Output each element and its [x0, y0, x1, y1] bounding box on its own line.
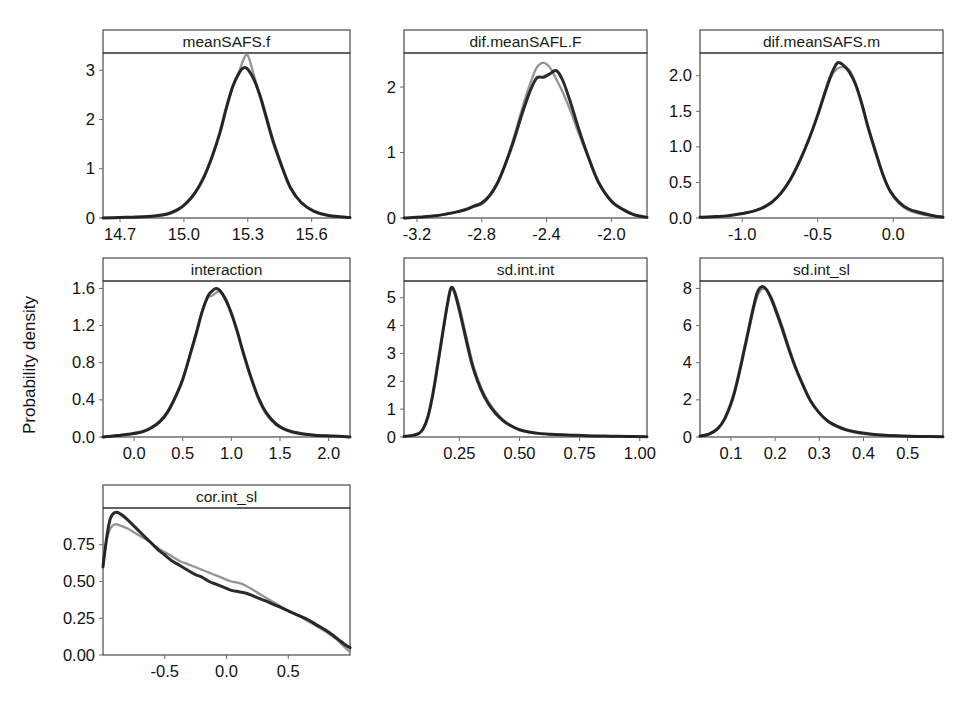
x-tick-label: -3.2: [403, 225, 431, 243]
y-tick-label: 0.75: [63, 535, 95, 553]
y-tick-label: 0: [387, 209, 396, 227]
panel-title: meanSAFS.f: [183, 33, 272, 50]
y-tick-label: 3: [86, 61, 95, 79]
x-tick-label: 0.0: [882, 225, 905, 243]
x-tick-label: -0.5: [804, 225, 832, 243]
y-tick-label: 0.0: [669, 209, 692, 227]
y-tick-label: 0.5: [669, 173, 692, 191]
y-tick-label: 0: [683, 428, 692, 446]
x-tick-label: 0.5: [896, 444, 919, 462]
panel-frame: [404, 53, 647, 218]
y-tick-label: 4: [387, 316, 396, 334]
x-tick-label: 0.75: [564, 444, 596, 462]
y-tick-label: 1.0: [669, 137, 692, 155]
panel-frame: [103, 53, 350, 218]
x-tick-label: 15.3: [232, 225, 264, 243]
panel-title: interaction: [191, 261, 263, 278]
y-tick-label: 1: [387, 143, 396, 161]
y-tick-label: 2: [387, 78, 396, 96]
x-tick-label: 1.0: [220, 444, 243, 462]
y-tick-label: 5: [387, 288, 396, 306]
x-tick-label: 0.5: [171, 444, 194, 462]
y-tick-label: 0: [86, 209, 95, 227]
y-tick-label: 0.25: [63, 609, 95, 627]
x-tick-label: 0.3: [808, 444, 831, 462]
y-tick-label: 0.50: [63, 572, 95, 590]
y-tick-label: 4: [683, 353, 692, 371]
y-tick-label: 8: [683, 279, 692, 297]
density-curve-chain-dark: [103, 67, 350, 218]
density-curve-chain-light: [404, 63, 647, 218]
x-tick-label: 0.0: [215, 662, 238, 680]
y-tick-label: 1.2: [72, 316, 95, 334]
x-tick-label: 0.2: [764, 444, 787, 462]
y-tick-label: 0.8: [72, 353, 95, 371]
y-tick-label: 1: [86, 159, 95, 177]
x-tick-label: 0.5: [277, 662, 300, 680]
x-tick-label: 0.25: [443, 444, 475, 462]
panel-title: sd.int.int: [497, 261, 555, 278]
panel-title: dif.meanSAFS.m: [763, 33, 880, 50]
y-tick-label: 0.00: [63, 646, 95, 664]
x-tick-label: 14.7: [104, 225, 136, 243]
x-tick-label: 0.0: [123, 444, 146, 462]
y-tick-label: 0: [387, 428, 396, 446]
panel-meanSAFS.f: meanSAFS.f012314.715.015.315.6: [86, 30, 350, 243]
x-tick-label: -2.8: [468, 225, 496, 243]
x-tick-label: 1.00: [624, 444, 656, 462]
density-panel-grid: meanSAFS.f012314.715.015.315.6dif.meanSA…: [0, 0, 977, 707]
density-curve-chain-dark: [404, 70, 647, 218]
density-curve-chain-light: [103, 55, 350, 218]
panel-sd.int_sl: sd.int_sl024680.10.20.30.40.5: [683, 258, 943, 462]
panel-interaction: interaction0.00.40.81.21.60.00.51.01.52.…: [72, 258, 350, 462]
panel-frame: [404, 281, 647, 437]
density-curve-chain-light: [700, 67, 943, 217]
x-tick-label: 15.6: [296, 225, 328, 243]
y-tick-label: 2: [86, 110, 95, 128]
x-tick-label: 0.50: [503, 444, 535, 462]
x-tick-label: 15.0: [168, 225, 200, 243]
x-tick-label: 1.5: [269, 444, 292, 462]
y-tick-label: 2.0: [669, 66, 692, 84]
y-tick-label: 1.5: [669, 102, 692, 120]
y-tick-label: 1.6: [72, 279, 95, 297]
y-tick-label: 2: [683, 390, 692, 408]
y-tick-label: 1: [387, 400, 396, 418]
x-tick-label: 0.1: [719, 444, 742, 462]
y-tick-label: 6: [683, 316, 692, 334]
x-tick-label: -2.4: [532, 225, 560, 243]
density-curve-chain-light: [103, 291, 350, 437]
density-curve-chain-dark: [700, 286, 943, 436]
density-curve-chain-dark: [404, 287, 647, 437]
x-tick-label: 0.4: [852, 444, 875, 462]
panel-dif.meanSAFL.F: dif.meanSAFL.F012-3.2-2.8-2.4-2.0: [387, 30, 647, 243]
y-axis-label: Probability density: [10, 250, 50, 480]
density-curve-chain-dark: [103, 288, 350, 437]
x-tick-label: -0.5: [151, 662, 179, 680]
panel-title: dif.meanSAFL.F: [470, 33, 582, 50]
x-tick-label: -1.0: [728, 225, 756, 243]
y-tick-label: 2: [387, 372, 396, 390]
y-tick-label: 0.4: [72, 390, 95, 408]
panel-frame: [700, 53, 943, 218]
panel-dif.meanSAFS.m: dif.meanSAFS.m0.00.51.01.52.0-1.0-0.50.0: [669, 30, 943, 243]
y-tick-label: 3: [387, 344, 396, 362]
x-tick-label: -2.0: [597, 225, 625, 243]
density-curve-chain-dark: [700, 62, 943, 217]
panel-title: sd.int_sl: [793, 261, 850, 278]
y-axis-label-wrap: Probability density: [10, 250, 50, 480]
density-curve-chain-light: [404, 288, 647, 437]
panel-sd.int.int: sd.int.int0123450.250.500.751.00: [387, 258, 656, 462]
panel-cor.int_sl: cor.int_sl0.000.250.500.75-0.50.00.5: [63, 485, 350, 680]
y-tick-label: 0.0: [72, 428, 95, 446]
x-tick-label: 2.0: [317, 444, 340, 462]
panel-title: cor.int_sl: [196, 488, 257, 505]
